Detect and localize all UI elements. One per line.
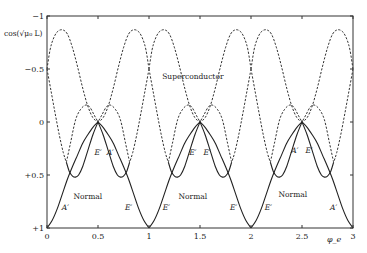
superconductor-curve-3-period-2-mirror: [334, 69, 353, 162]
y-axis-label: cos(√μ₀ L): [4, 29, 43, 38]
region-label: Normal: [179, 192, 208, 201]
symmetry-label: E′: [188, 148, 196, 157]
region-label: Superconductor: [162, 72, 224, 81]
superconductor-curve-3-period-1: [149, 69, 168, 162]
symmetry-label: A′: [106, 148, 114, 157]
band-structure-chart: 00.511.522.53−1−0.50+0.5+1 Superconducto…: [0, 0, 367, 253]
superconductor-curve-3-period-0-mirror: [130, 69, 149, 162]
symmetry-label: E′: [162, 203, 170, 212]
y-tick-label: 0: [39, 118, 44, 127]
superconductor-curve-3-period-0: [47, 69, 66, 162]
y-tick-label: −1: [32, 12, 44, 21]
x-tick-label: 2.5: [296, 232, 309, 241]
x-tick-label: 1.5: [194, 232, 207, 241]
y-tick-label: +1: [32, 224, 44, 233]
region-label: Normal: [278, 190, 307, 199]
x-tick-label: 0.5: [92, 232, 105, 241]
x-tick-label: 0: [44, 232, 49, 241]
symmetry-label: E′: [264, 203, 272, 212]
x-tick-label: 1: [146, 232, 151, 241]
normal-curve-0-period-2: [251, 122, 302, 228]
x-axis-label: φ_e: [327, 235, 342, 244]
normal-curve-0-period-1-mirror: [200, 122, 251, 228]
x-tick-label: 2: [248, 232, 253, 241]
region-label: Normal: [73, 192, 102, 201]
superconductor-curve-3-period-1-mirror: [232, 69, 251, 162]
normal-curve-0-period-0: [47, 122, 98, 228]
symmetry-label: E′: [229, 203, 237, 212]
superconductor-curve-3-period-2: [251, 69, 270, 162]
symmetry-label: E′: [93, 148, 101, 157]
y-tick-label: −0.5: [25, 65, 44, 74]
symmetry-label: A′: [61, 203, 69, 212]
normal-curve-0-period-2-mirror: [302, 122, 353, 228]
y-tick-label: +0.5: [25, 171, 44, 180]
symmetry-label: E′: [203, 148, 211, 157]
symmetry-label: A′: [329, 203, 337, 212]
symmetry-label: A′: [290, 146, 298, 155]
x-tick-label: 3: [350, 232, 355, 241]
symmetry-label: E′: [124, 203, 132, 212]
annotations-layer: SuperconductorNormalNormalNormalA′E′A′E′…: [61, 72, 338, 211]
normal-curve-0-period-1: [149, 122, 200, 228]
symmetry-label: E′: [305, 146, 313, 155]
normal-curve-0-period-0-mirror: [98, 122, 149, 228]
